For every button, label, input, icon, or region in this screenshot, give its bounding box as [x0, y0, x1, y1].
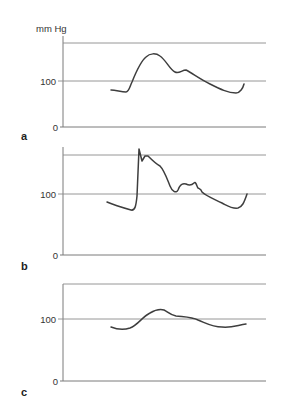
panel-a-tick-100: 100	[40, 76, 56, 87]
panel-a-tick-0: 0	[53, 122, 58, 133]
pressure-waveform-figure: mm Hg 100 0 a 100 0 b 100 0 c	[0, 0, 282, 414]
panel-a-label: a	[21, 130, 28, 142]
panel-b-label: b	[21, 260, 28, 272]
panel-c: 100 0 c	[21, 284, 266, 398]
panel-a-curve	[111, 54, 244, 93]
panel-a: 100 0 a	[21, 36, 266, 142]
panel-c-label: c	[21, 386, 27, 398]
panel-b-tick-0: 0	[53, 250, 58, 261]
panel-c-tick-100: 100	[40, 314, 56, 325]
panel-b-tick-100: 100	[40, 189, 56, 200]
panel-b: 100 0 b	[21, 147, 266, 272]
panel-c-tick-0: 0	[53, 376, 58, 387]
panel-b-curve	[107, 149, 247, 210]
y-axis-unit-label: mm Hg	[36, 23, 67, 34]
